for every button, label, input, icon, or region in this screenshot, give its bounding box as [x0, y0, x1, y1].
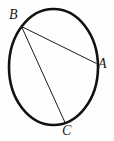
- point-label-b: B: [9, 8, 18, 22]
- chord-b-to-c: [22, 27, 66, 123]
- point-label-a: A: [98, 57, 107, 71]
- geometry-figure: A B C: [0, 0, 114, 141]
- chord-b-to-a: [22, 27, 97, 64]
- point-label-c: C: [62, 124, 71, 138]
